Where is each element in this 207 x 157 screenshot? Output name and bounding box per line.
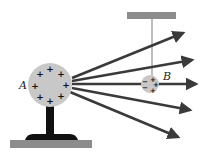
label-b: B bbox=[162, 70, 171, 83]
positive-charge: + bbox=[31, 81, 39, 91]
floor-base bbox=[10, 140, 92, 148]
ceiling-support bbox=[127, 12, 176, 19]
positive-charge: + bbox=[46, 96, 54, 106]
positive-charge: + bbox=[150, 87, 156, 95]
positive-charge: + bbox=[36, 92, 44, 102]
positive-charge: + bbox=[46, 64, 54, 74]
positive-charge: + bbox=[62, 80, 70, 90]
negative-charge: − bbox=[142, 84, 148, 92]
positive-charge: + bbox=[57, 91, 65, 101]
positive-charge: + bbox=[36, 69, 44, 79]
stand-post bbox=[46, 104, 54, 136]
electrostatic-induction-diagram: ++++++++ A −−+++ B bbox=[0, 0, 207, 157]
label-a: A bbox=[18, 79, 27, 92]
field-lines bbox=[70, 33, 196, 137]
positive-charge: + bbox=[57, 69, 65, 79]
